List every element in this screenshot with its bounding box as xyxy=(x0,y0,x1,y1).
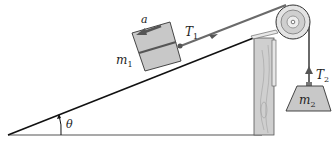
wooden-post xyxy=(254,38,274,135)
acceleration-label: a xyxy=(141,13,148,26)
rope-knot xyxy=(178,44,183,49)
incline-pulley-diagram: θ a m1 T1 T2 m2 xyxy=(0,0,334,143)
tension2-label: T2 xyxy=(316,68,329,84)
incline-surface xyxy=(8,37,256,135)
pulley-bracket xyxy=(272,40,276,86)
block-m1[interactable] xyxy=(132,22,181,71)
tension2-arrowhead-icon xyxy=(305,66,313,74)
angle-label: θ xyxy=(66,118,73,131)
m2-hook xyxy=(306,82,312,86)
tension1-label: T1 xyxy=(185,25,198,41)
mass1-label: m1 xyxy=(116,53,132,69)
pulley-axle xyxy=(291,20,295,24)
